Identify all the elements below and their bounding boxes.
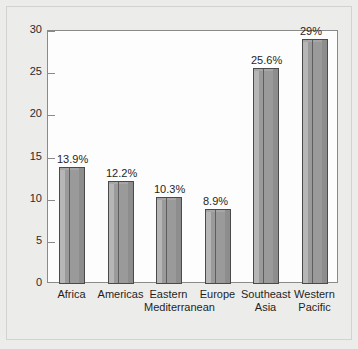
y-axis-tick-label: 15 bbox=[14, 151, 42, 162]
bar bbox=[302, 39, 328, 284]
chart-screenshot: 051015202530 13.9%12.2%10.3%8.9%25.6%29%… bbox=[0, 0, 358, 349]
x-axis-category-label-line2: Asia bbox=[241, 301, 290, 314]
bar-left-face bbox=[303, 40, 308, 283]
bar-right-face bbox=[225, 210, 230, 283]
plot-area: 13.9%12.2%10.3%8.9%25.6%29% bbox=[47, 30, 338, 283]
x-axis-category-label-line1: Western bbox=[294, 288, 335, 300]
x-axis-category-label-line1: Americas bbox=[98, 288, 144, 300]
bar-value-label: 13.9% bbox=[57, 153, 88, 165]
bar-right-face bbox=[176, 198, 181, 283]
x-axis: AfricaAmericasEasternMediterraneanEurope… bbox=[47, 288, 338, 334]
bar bbox=[59, 167, 85, 284]
bar bbox=[205, 209, 231, 284]
bar-left-face bbox=[109, 182, 114, 283]
bar-left-face bbox=[206, 210, 211, 283]
x-axis-category-label: EasternMediterranean bbox=[144, 288, 193, 314]
x-axis-category-label-line2: Pacific bbox=[290, 301, 339, 314]
y-axis-tick-label: 0 bbox=[14, 277, 42, 288]
y-axis-tick-mark bbox=[48, 200, 55, 201]
bar-seam-line bbox=[263, 69, 264, 283]
bar-value-label: 12.2% bbox=[106, 167, 137, 179]
bar bbox=[108, 181, 134, 284]
x-axis-category-label-line1: Southeast bbox=[241, 288, 291, 300]
y-axis-tick-mark bbox=[48, 73, 55, 74]
x-axis-category-label: Africa bbox=[47, 288, 96, 301]
bar-right-face bbox=[79, 168, 84, 283]
y-axis-tick-mark bbox=[48, 158, 55, 159]
x-axis-category-label: Europe bbox=[193, 288, 242, 301]
bar bbox=[253, 68, 279, 284]
bar-value-label: 10.3% bbox=[154, 183, 185, 195]
bar-left-face bbox=[157, 198, 162, 283]
bar-seam-line bbox=[166, 198, 167, 283]
y-axis: 051015202530 bbox=[12, 30, 42, 283]
y-axis-tick-mark bbox=[48, 242, 55, 243]
y-axis-tick-label: 10 bbox=[14, 193, 42, 204]
x-axis-category-label-line1: Eastern bbox=[150, 288, 188, 300]
y-axis-tick-label: 20 bbox=[14, 108, 42, 119]
x-axis-category-label: Americas bbox=[96, 288, 145, 301]
bar-value-label: 8.9% bbox=[203, 195, 228, 207]
x-axis-category-label-line1: Europe bbox=[200, 288, 235, 300]
bar-left-face bbox=[60, 168, 65, 283]
x-axis-category-label: WesternPacific bbox=[290, 288, 339, 314]
y-axis-tick-label: 5 bbox=[14, 235, 42, 246]
bar-seam-line bbox=[118, 182, 119, 283]
y-axis-tick-mark bbox=[48, 31, 55, 32]
bar-left-face bbox=[254, 69, 259, 283]
x-axis-category-label-line2: Mediterranean bbox=[144, 301, 193, 314]
x-axis-category-label: SoutheastAsia bbox=[241, 288, 290, 314]
bar-seam-line bbox=[215, 210, 216, 283]
bar-seam-line bbox=[69, 168, 70, 283]
bar-right-face bbox=[322, 40, 327, 283]
y-axis-tick-label: 30 bbox=[14, 24, 42, 35]
y-axis-tick-mark bbox=[48, 115, 55, 116]
bar-right-face bbox=[128, 182, 133, 283]
bar bbox=[156, 197, 182, 284]
bar-seam-line bbox=[312, 40, 313, 283]
y-axis-tick-label: 25 bbox=[14, 66, 42, 77]
bar-right-face bbox=[273, 69, 278, 283]
bar-value-label: 25.6% bbox=[251, 54, 282, 66]
bar-value-label: 29% bbox=[300, 25, 322, 37]
x-axis-category-label-line1: Africa bbox=[57, 288, 85, 300]
